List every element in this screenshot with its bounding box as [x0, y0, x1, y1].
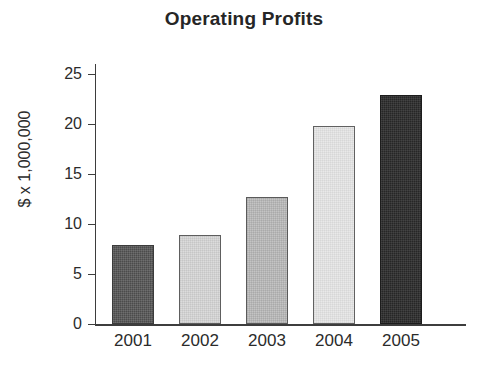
x-tick-label-2001: 2001	[103, 331, 163, 351]
y-tick-mark	[88, 124, 96, 125]
x-tick-label-2003: 2003	[237, 331, 297, 351]
x-tick-label-2004: 2004	[304, 331, 364, 351]
bar-chart: Operating Profits $ x 1,000,000 05101520…	[0, 0, 488, 373]
y-tick-label: 10	[48, 216, 82, 232]
y-tick-mark	[88, 174, 96, 175]
bar-2003[interactable]	[246, 197, 288, 324]
y-axis-line	[95, 64, 96, 325]
x-tick-label-2002: 2002	[170, 331, 230, 351]
bar-2004[interactable]	[313, 126, 355, 324]
x-axis-line	[95, 324, 466, 326]
y-tick-mark	[88, 224, 96, 225]
bar-2005[interactable]	[380, 95, 422, 324]
x-tick-label-2005: 2005	[371, 331, 431, 351]
y-tick-label: 5	[48, 266, 82, 282]
y-tick-label: 25	[48, 66, 82, 82]
y-tick-mark	[88, 274, 96, 275]
y-tick-label: 15	[48, 166, 82, 182]
y-tick-label: 0	[48, 316, 82, 332]
bar-2002[interactable]	[179, 235, 221, 324]
y-tick-label: 20	[48, 116, 82, 132]
y-axis-label: $ x 1,000,000	[16, 79, 34, 239]
y-tick-mark	[88, 74, 96, 75]
chart-title: Operating Profits	[0, 8, 488, 30]
y-tick-mark	[88, 324, 96, 325]
bar-2001[interactable]	[112, 245, 154, 324]
